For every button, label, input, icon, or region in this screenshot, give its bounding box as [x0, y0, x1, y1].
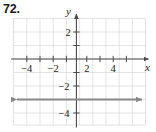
graph-figure: 72. — [0, 0, 156, 132]
y-tick-label-2: 2 — [64, 27, 72, 38]
y-axis-label: y — [66, 6, 71, 17]
y-tick-label-neg2: −2 — [56, 81, 72, 92]
x-tick-label-2: 2 — [83, 63, 91, 74]
x-tick-label-neg2: −2 — [45, 63, 61, 74]
y-tick-label-neg4: −4 — [56, 108, 72, 119]
x-tick-label-neg4: −4 — [19, 63, 35, 74]
x-tick-label-4: 4 — [109, 63, 117, 74]
x-axis-label: x — [145, 62, 150, 73]
